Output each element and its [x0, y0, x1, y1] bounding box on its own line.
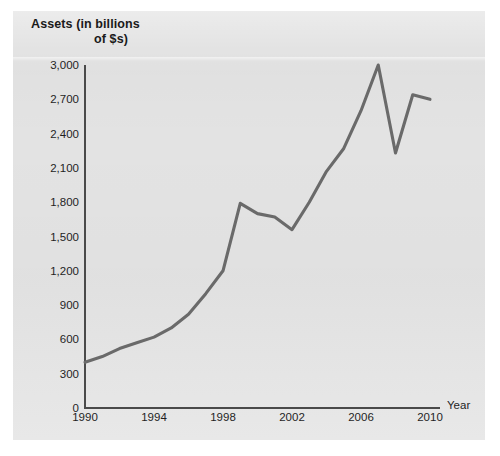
series-line-assets: [85, 65, 430, 362]
chart-panel: Assets (in billions of $s) 03006009001,2…: [13, 11, 485, 440]
chart-figure: Assets (in billions of $s) 03006009001,2…: [0, 0, 500, 456]
plot-area: [13, 11, 485, 440]
